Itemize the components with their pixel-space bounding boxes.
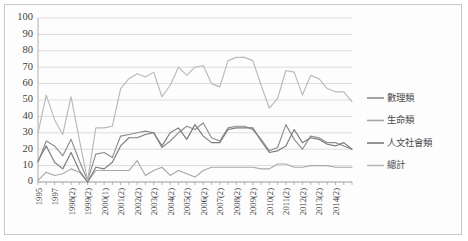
x-axis-tick-label: 2013(2): [314, 188, 324, 215]
series-line-1: [38, 123, 352, 180]
x-axis-tick-label: 1998(2): [67, 188, 77, 215]
y-axis-tick-label: 80: [23, 44, 34, 55]
y-axis-tick-label: 100: [17, 11, 33, 22]
y-axis-tick-label: 90: [23, 28, 34, 39]
line-chart: 0102030405060708090100 199519971998(2)19…: [5, 5, 461, 234]
y-axis-tick-label: 0: [28, 175, 33, 186]
chart-frame: 0102030405060708090100 199519971998(2)19…: [4, 4, 462, 235]
x-axis-tick-label: 2011(2): [281, 188, 291, 215]
y-axis-tick-label: 60: [23, 77, 34, 88]
x-axis-tick-label: 2008(2): [232, 188, 242, 215]
legend-label-4: 總計: [387, 159, 405, 170]
x-axis-tick-label: 2004(2): [166, 188, 176, 215]
data-series-group: [38, 57, 352, 182]
y-axis-tick-label: 50: [23, 93, 34, 104]
chart-svg: 0102030405060708090100 199519971998(2)19…: [5, 5, 461, 234]
gridlines: [38, 18, 352, 182]
y-axis-tick-label: 70: [23, 61, 34, 72]
x-axis-tick-label: 1999(2): [83, 188, 93, 215]
y-axis-labels: 0102030405060708090100: [17, 11, 33, 186]
x-axis-tick-label: 2000(1): [100, 188, 110, 215]
x-axis-labels: 199519971998(2)1999(2)2000(1)2001(2)2002…: [34, 187, 341, 215]
x-axis-tick-label: 2014(2): [331, 188, 341, 215]
x-axis-tick-label: 2012(2): [298, 188, 308, 215]
x-axis-tick-label: 2007(2): [215, 188, 225, 215]
x-axis-tick-label: 2003(2): [149, 188, 159, 215]
y-axis-tick-label: 10: [23, 159, 34, 170]
x-axis-tick-label: 2005(2): [182, 188, 192, 215]
x-axis-tick-label: 2010(2): [265, 188, 275, 215]
legend-label-3: 人文社會類: [387, 137, 433, 148]
legend-label-1: 數理類: [387, 92, 415, 103]
x-axis-tick-label: 2006(2): [199, 188, 209, 215]
chart-legend: 數理類生命類人文社會類總計: [367, 92, 433, 171]
y-axis-tick-label: 40: [23, 110, 34, 121]
x-axis-ticks: [38, 182, 352, 185]
x-axis-tick-label: 1997: [50, 187, 60, 205]
x-axis-tick-label: 1995: [34, 188, 44, 205]
x-axis-tick-label: 2009(2): [248, 188, 258, 215]
series-line-4: [38, 57, 352, 180]
x-axis-tick-label: 2002(2): [133, 188, 143, 215]
legend-label-2: 生命類: [387, 114, 415, 125]
y-axis-tick-label: 30: [23, 126, 34, 137]
y-axis-tick-label: 20: [23, 143, 34, 154]
x-axis-tick-label: 2001(2): [116, 188, 126, 215]
